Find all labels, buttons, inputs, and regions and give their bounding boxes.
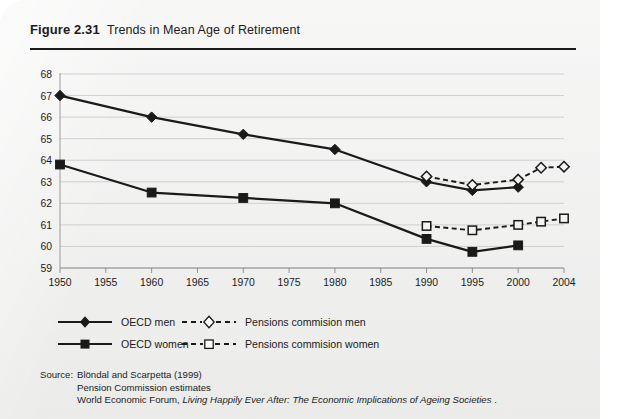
source-wef-title: Living Happily Ever After: The Economic … bbox=[182, 394, 491, 405]
x-tick-label: 1985 bbox=[369, 277, 392, 288]
x-tick-label: 1970 bbox=[232, 277, 255, 288]
y-tick-label: 63 bbox=[40, 177, 52, 188]
series-line bbox=[60, 165, 518, 252]
data-point-marker bbox=[560, 214, 568, 222]
title-divider bbox=[30, 48, 576, 50]
data-point-marker bbox=[537, 217, 545, 225]
x-tick-label: 2000 bbox=[507, 277, 530, 288]
figure-header: Figure 2.31 Trends in Mean Age of Retire… bbox=[30, 22, 575, 37]
y-tick-label: 68 bbox=[40, 69, 52, 80]
x-tick-label: 1980 bbox=[323, 277, 346, 288]
data-point-marker bbox=[146, 112, 156, 122]
grid-lines bbox=[60, 74, 564, 268]
legend-label-oecd-men: OECD men bbox=[121, 316, 175, 328]
legend-item-pc-men: Pensions commision men bbox=[180, 312, 366, 332]
source-line-1: Blöndal and Scarpetta (1999) bbox=[77, 369, 560, 382]
retirement-age-line-chart: 59606162636465666768 1950195519601965197… bbox=[30, 62, 576, 302]
legend-label-pc-women: Pensions commision women bbox=[245, 338, 379, 350]
series-pensions-commision-women bbox=[422, 214, 568, 234]
chart-legend: OECD men OECD women Pensions commision m… bbox=[30, 310, 550, 358]
figure-title: Trends in Mean Age of Retirement bbox=[107, 23, 300, 37]
source-note: Source: Blöndal and Scarpetta (1999) Pen… bbox=[40, 369, 560, 407]
data-series-group bbox=[55, 90, 569, 256]
x-axis-tick-marks bbox=[60, 268, 564, 273]
data-point-marker bbox=[239, 194, 248, 203]
x-tick-label: 1960 bbox=[140, 277, 163, 288]
legend-item-oecd-men: OECD men bbox=[56, 312, 175, 332]
figure-page: Figure 2.31 Trends in Mean Age of Retire… bbox=[0, 0, 631, 419]
legend-swatch-pc-women bbox=[180, 337, 238, 351]
series-oecd-women bbox=[56, 160, 523, 256]
page-right-margin bbox=[600, 0, 631, 419]
legend-swatch-pc-men bbox=[180, 315, 238, 329]
legend-item-pc-women: Pensions commision women bbox=[180, 334, 379, 354]
y-tick-label: 67 bbox=[40, 91, 52, 102]
x-tick-label: 2004 bbox=[552, 277, 575, 288]
data-point-marker bbox=[147, 188, 156, 197]
data-point-marker bbox=[468, 247, 477, 256]
source-line-3: World Economic Forum, Living Happily Eve… bbox=[77, 394, 560, 407]
legend-swatch-oecd-women bbox=[56, 337, 114, 351]
data-point-marker bbox=[514, 221, 522, 229]
source-body: Blöndal and Scarpetta (1999) Pension Com… bbox=[77, 369, 560, 407]
legend-label-pc-men: Pensions commision men bbox=[245, 316, 366, 328]
figure-number: Figure 2.31 bbox=[30, 22, 100, 37]
source-line-2: Pension Commission estimates bbox=[77, 382, 560, 395]
x-tick-label: 1995 bbox=[461, 277, 484, 288]
x-tick-label: 1955 bbox=[94, 277, 117, 288]
legend-swatch-oecd-men bbox=[56, 315, 114, 329]
source-wef-prefix: World Economic Forum, bbox=[77, 394, 182, 405]
x-tick-label: 1950 bbox=[48, 277, 71, 288]
data-point-marker bbox=[468, 226, 476, 234]
x-tick-label: 1990 bbox=[415, 277, 438, 288]
data-point-marker bbox=[559, 161, 569, 171]
y-axis-tick-labels: 59606162636465666768 bbox=[40, 69, 52, 274]
data-point-marker bbox=[514, 241, 523, 250]
y-tick-label: 66 bbox=[40, 112, 52, 123]
legend-item-oecd-women: OECD women bbox=[56, 334, 189, 354]
x-axis-tick-labels: 1950195519601965197019751980198519901995… bbox=[48, 277, 575, 288]
y-tick-label: 65 bbox=[40, 134, 52, 145]
source-label: Source: bbox=[40, 369, 73, 382]
data-point-marker bbox=[238, 129, 248, 139]
x-tick-label: 1975 bbox=[278, 277, 301, 288]
y-tick-label: 60 bbox=[40, 241, 52, 252]
data-point-marker bbox=[55, 90, 65, 100]
y-tick-label: 62 bbox=[40, 198, 52, 209]
series-line bbox=[60, 96, 518, 191]
data-point-marker bbox=[330, 144, 340, 154]
y-tick-label: 59 bbox=[40, 263, 52, 274]
data-point-marker bbox=[56, 160, 65, 169]
source-wef-suffix: . bbox=[492, 394, 497, 405]
data-point-marker bbox=[422, 222, 430, 230]
data-point-marker bbox=[331, 199, 340, 208]
data-point-marker bbox=[422, 235, 431, 244]
y-tick-label: 61 bbox=[40, 220, 52, 231]
figure-caption: Figure 2.31 Trends in Mean Age of Retire… bbox=[30, 22, 575, 37]
series-oecd-men bbox=[55, 90, 524, 195]
x-tick-label: 1965 bbox=[186, 277, 209, 288]
chart-area: 59606162636465666768 1950195519601965197… bbox=[30, 62, 576, 302]
data-point-marker bbox=[513, 174, 523, 184]
legend-label-oecd-women: OECD women bbox=[121, 338, 189, 350]
y-tick-label: 64 bbox=[40, 155, 52, 166]
axis-lines bbox=[60, 73, 564, 268]
data-point-marker bbox=[536, 163, 546, 173]
